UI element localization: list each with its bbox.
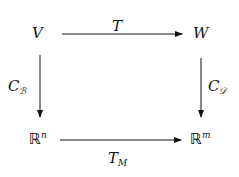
- node-rm-exponent: m: [202, 130, 211, 140]
- node-rn-exponent: n: [41, 130, 47, 140]
- label-cd: C𝒟: [208, 79, 226, 96]
- node-rm-base: ℝ: [190, 130, 202, 148]
- node-rm: ℝm: [190, 131, 210, 147]
- label-cd-sub: 𝒟: [219, 86, 226, 96]
- label-cd-base: C: [208, 77, 219, 95]
- label-cb-sub: ℬ: [19, 86, 26, 96]
- label-t: T: [112, 19, 122, 34]
- label-tm-base: T: [108, 149, 118, 167]
- node-rn-base: ℝ: [29, 130, 41, 148]
- label-cb: Cℬ: [8, 79, 26, 96]
- node-rn: ℝn: [29, 131, 47, 147]
- node-v-label: V: [32, 24, 43, 42]
- node-w-label: W: [193, 24, 208, 42]
- node-w: W: [193, 26, 208, 41]
- label-tm-sub: M: [118, 158, 127, 168]
- node-v: V: [32, 26, 43, 41]
- label-t-text: T: [112, 17, 122, 35]
- label-tm: TM: [108, 151, 127, 168]
- label-cb-base: C: [8, 77, 19, 95]
